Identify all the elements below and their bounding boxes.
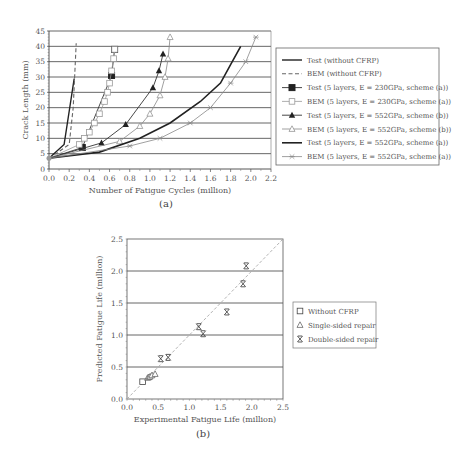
x-tick-label: 0.4 [83,174,95,183]
data-point-marker [109,68,115,74]
data-point-marker [112,47,118,53]
x-tick-label: 0.0 [43,174,55,183]
legend-label: Test (5 layers, E = 552GPa, scheme (b)) [307,112,449,120]
x-tick-label: 1.0 [144,174,156,183]
data-point-marker [97,111,103,117]
x-tick-label: 2.5 [277,403,289,412]
data-point-marker [157,136,163,141]
legend-label: BEM (5 layers, E = 230GPa, scheme (a)) [307,98,451,106]
data-point-marker [208,105,214,110]
y-tick-label: 10 [35,134,45,143]
chart-b-fatigue-life: 0.00.51.01.52.02.50.00.51.01.52.02.5Expe… [95,235,379,440]
series-line [49,54,163,158]
data-point-marker [228,81,234,86]
chart-a-crack-growth: 0510152025303540450.00.20.40.60.81.01.21… [21,27,451,210]
x-tick-label: 1.5 [215,403,227,412]
y-tick-label: 0.5 [111,363,123,372]
data-point-marker [167,34,173,40]
legend-box [276,48,439,165]
legend-label: Test (5 layers, E = 230GPa, scheme (a)) [307,84,448,92]
data-point-marker [243,59,249,64]
data-point-marker [111,56,117,62]
y-tick-label: 5 [40,149,45,158]
legend-label: BEM (5 layers, E = 552GPa, scheme (a)) [307,153,451,161]
data-point-marker [157,92,163,98]
caption-a: (a) [159,198,173,209]
data-point-marker [244,263,249,269]
data-point-marker [166,354,171,360]
y-tick-label: 30 [35,73,45,82]
y-tick-label: 45 [35,27,45,36]
x-tick-label: 2.2 [265,174,277,183]
data-point-marker [82,136,88,142]
data-point-marker [240,281,245,287]
x-tick-label: 1.8 [225,174,237,183]
legend-label: Test (5 layers, E = 552GPa, scheme (a)) [307,139,448,147]
data-point-marker [98,139,104,145]
data-point-marker [160,51,166,57]
legend-marker [289,85,295,91]
caption-b: (b) [196,428,210,439]
legend-label: Without CFRP [308,308,359,316]
legend-label: BEM (5 layers, E = 552GPa, scheme (b)) [307,126,451,134]
origin-marker [47,156,52,161]
data-point-marker [117,138,123,144]
legend-marker [289,99,295,105]
y-tick-label: 0 [40,165,45,174]
y-axis-title: Predicted Fatigue Life (million) [95,256,104,383]
y-tick-label: 25 [35,88,45,97]
data-point-marker [253,35,259,40]
x-tick-label: 1.4 [184,174,196,183]
data-point-marker [92,120,98,126]
x-tick-label: 0.8 [124,174,136,183]
legend-label: Single-sided repair [308,322,376,330]
series-line [49,37,256,158]
legend-label: Double-sided repair [308,336,379,344]
y-tick-label: 15 [35,119,45,128]
legend-label: Test (without CFRP) [307,57,379,65]
data-point-marker [87,129,93,135]
x-tick-label: 2.0 [246,403,258,412]
data-point-marker [127,144,133,149]
figure: 0510152025303540450.00.20.40.60.81.01.21… [0,0,464,452]
y-tick-label: 1.5 [111,299,123,308]
x-tick-label: 2.0 [245,174,257,183]
data-point-marker [187,121,193,126]
legend-label: BEM (without CFRP) [307,70,382,78]
data-point-marker [150,84,156,90]
x-tick-label: 0.0 [121,403,133,412]
x-axis-title: Experimental Fatigue Life (million) [134,415,276,424]
x-tick-label: 0.5 [152,403,164,412]
data-point-marker [107,80,113,86]
y-tick-label: 35 [35,57,45,66]
x-tick-label: 1.6 [204,174,216,183]
series-line [49,79,74,159]
x-tick-label: 0.2 [63,174,75,183]
y-tick-label: 2.5 [111,235,123,244]
data-point-marker [76,142,82,148]
y-tick-label: 2.0 [111,267,123,276]
data-point-marker [147,111,153,117]
data-point-marker [201,331,206,337]
x-tick-label: 1.2 [164,174,176,183]
series-line [49,43,76,158]
y-tick-label: 20 [35,103,45,112]
x-axis-title: Number of Fatigue Cycles (million) [89,186,231,195]
legend-marker [297,308,303,314]
y-axis-title: Crack Length (mm) [21,60,30,139]
x-tick-label: 1.0 [183,403,195,412]
x-tick-label: 0.6 [104,174,116,183]
y-tick-label: 1.0 [111,331,123,340]
data-point-marker [224,309,229,315]
data-point-marker [105,90,111,96]
data-point-marker [102,99,108,105]
y-tick-label: 40 [35,42,45,51]
data-point-marker [156,67,162,73]
data-point-marker [158,356,163,362]
